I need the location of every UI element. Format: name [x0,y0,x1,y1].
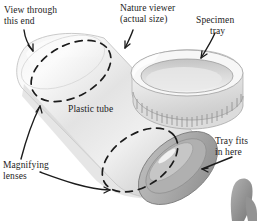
label-line-2: lenses [3,171,27,181]
label-line-1: Magnifying [3,160,49,170]
specimen-tray [131,50,243,129]
corner-object [231,179,257,221]
label-line-2: this end [4,16,35,26]
label-line-2: tray [210,26,234,37]
label-magnifying-lenses: Magnifying lenses [3,160,49,181]
label-line-1: Specimen [196,15,234,25]
label-line-1: View through [4,5,57,15]
label-line-2: (actual size) [120,14,167,24]
arrow-magnifying-upper [21,106,40,159]
label-tray-fits-in-here: Tray fitsin here [215,136,248,157]
label-line-2: in here [215,147,248,158]
label-line-1: Plastic tube [68,104,113,114]
label-nature-viewer: Nature viewer (actual size) [120,3,175,24]
tray-cavity-floor [146,67,222,91]
label-specimen-tray: Specimentray [196,15,234,36]
label-plastic-tube: Plastic tube [68,104,113,115]
label-view-through-this-end: View through this end [4,5,57,26]
label-line-1: Nature viewer [120,3,175,13]
label-line-1: Tray fits [215,136,248,146]
